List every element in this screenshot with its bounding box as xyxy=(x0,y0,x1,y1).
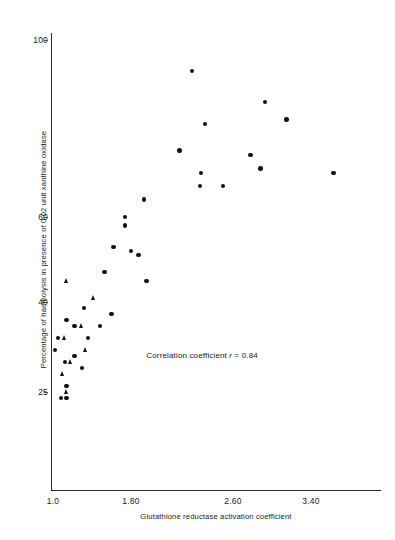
circle-marker-icon xyxy=(263,100,267,104)
x-tick-label: 2.60 xyxy=(224,497,241,506)
circle-marker-icon xyxy=(109,312,113,316)
circle-marker-icon xyxy=(221,184,225,188)
circle-marker-icon xyxy=(98,324,102,328)
annotation-prefix: Correlation coefficient xyxy=(146,351,229,360)
circle-marker-icon xyxy=(177,148,181,152)
y-axis-line xyxy=(51,33,52,491)
circle-marker-icon xyxy=(198,184,202,188)
circle-marker-icon xyxy=(72,354,76,358)
circle-marker-icon xyxy=(190,69,194,73)
x-tick-label: 1.0 xyxy=(47,497,59,506)
x-axis-title: Glutathione reductase activation coeffic… xyxy=(51,512,381,521)
circle-marker-icon xyxy=(258,166,262,170)
circle-marker-icon xyxy=(199,171,203,175)
x-tick-label: 1.80 xyxy=(122,497,139,506)
circle-marker-icon xyxy=(59,396,63,400)
circle-marker-icon xyxy=(72,324,76,328)
circle-marker-icon xyxy=(86,336,90,340)
triangle-marker-icon xyxy=(83,347,87,352)
circle-marker-icon xyxy=(129,249,133,253)
x-tick-label: 3.40 xyxy=(302,497,319,506)
triangle-marker-icon xyxy=(64,389,68,394)
circle-marker-icon xyxy=(111,245,115,249)
triangle-marker-icon xyxy=(64,278,68,283)
x-axis-line xyxy=(51,490,381,491)
y-tick-label: 100 xyxy=(12,36,48,45)
circle-marker-icon xyxy=(142,197,146,201)
circle-marker-icon xyxy=(102,270,106,274)
circle-marker-icon xyxy=(80,366,84,370)
circle-marker-icon xyxy=(56,336,60,340)
circle-marker-icon xyxy=(284,117,288,121)
y-tick-label: 25 xyxy=(12,388,48,397)
circle-marker-icon xyxy=(82,306,86,310)
circle-marker-icon xyxy=(331,171,335,175)
triangle-marker-icon xyxy=(68,359,72,364)
y-tick-mark xyxy=(44,40,48,41)
circle-marker-icon xyxy=(136,253,140,257)
triangle-marker-icon xyxy=(79,323,83,328)
y-tick-mark xyxy=(44,392,48,393)
triangle-marker-icon xyxy=(91,295,95,300)
circle-marker-icon xyxy=(248,153,252,157)
circle-marker-icon xyxy=(63,360,67,364)
circle-marker-icon xyxy=(64,384,68,388)
triangle-marker-icon xyxy=(60,371,64,376)
circle-marker-icon xyxy=(144,279,148,283)
circle-marker-icon xyxy=(64,318,68,322)
circle-marker-icon xyxy=(53,348,57,352)
correlation-annotation: Correlation coefficient r = 0.84 xyxy=(146,351,258,360)
scatter-plot-figure: 100 60 40 25 1.0 1.80 2.60 3.40 Percenta… xyxy=(0,0,395,540)
annotation-suffix: = 0.84 xyxy=(232,351,258,360)
circle-marker-icon xyxy=(203,122,207,126)
y-axis-title: Percentage of haemolysis in presence of … xyxy=(39,125,48,375)
circle-marker-icon xyxy=(123,215,127,219)
circle-marker-icon xyxy=(64,396,68,400)
triangle-marker-icon xyxy=(62,335,66,340)
circle-marker-icon xyxy=(123,223,127,227)
